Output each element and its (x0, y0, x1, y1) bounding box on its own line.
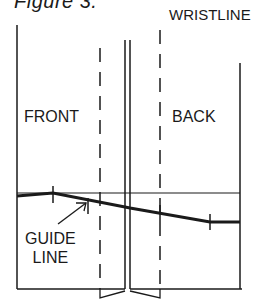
guide-label-line2: LINE (25, 248, 76, 267)
guide-arrow (58, 203, 86, 224)
guide-line (17, 193, 240, 222)
guide-line-label: GUIDE LINE (25, 229, 76, 267)
back-pattern-piece (130, 40, 242, 298)
front-label: FRONT (24, 108, 79, 126)
guide-label-line1: GUIDE (25, 229, 76, 248)
back-label: BACK (172, 108, 216, 126)
